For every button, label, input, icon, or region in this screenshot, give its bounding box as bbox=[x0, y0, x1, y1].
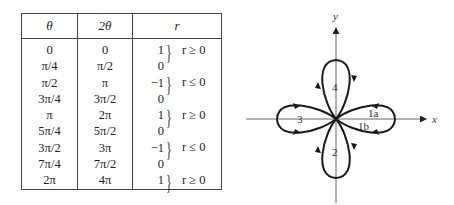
cell-two-theta: 0 bbox=[78, 42, 132, 58]
cell-r: −1 bbox=[133, 140, 164, 156]
brace: } bbox=[166, 106, 172, 128]
condition-label: r ≤ 0 bbox=[182, 75, 206, 90]
condition-label: r ≥ 0 bbox=[182, 173, 206, 188]
cell-two-theta: 2π bbox=[78, 107, 132, 123]
x-axis-label: x bbox=[431, 113, 437, 125]
rose-curve-graph: y x 1a 1b 2 3 4 bbox=[230, 0, 454, 205]
brace: } bbox=[166, 73, 172, 95]
cell-theta: π/2 bbox=[22, 75, 77, 91]
brace: } bbox=[166, 171, 172, 193]
condition-label: r ≤ 0 bbox=[182, 140, 206, 155]
cell-r: 0 bbox=[133, 58, 164, 74]
cell-two-theta: 5π/2 bbox=[78, 123, 132, 139]
condition-label: r ≥ 0 bbox=[182, 108, 206, 123]
cell-theta: π bbox=[22, 107, 77, 123]
cell-theta: 0 bbox=[22, 42, 77, 58]
petal-label-1b: 1b bbox=[358, 120, 370, 132]
cell-theta: 3π/2 bbox=[22, 140, 77, 156]
cell-r: 0 bbox=[133, 91, 164, 107]
petal-label-4: 4 bbox=[332, 81, 338, 93]
petal-label-2: 2 bbox=[332, 146, 338, 158]
two-theta-column: 0 π/2 π 3π/2 2π 5π/2 3π 7π/2 4π bbox=[78, 42, 132, 189]
condition-label: r ≥ 0 bbox=[182, 43, 206, 58]
petal-label-3: 3 bbox=[297, 113, 303, 125]
cell-theta: 2π bbox=[22, 172, 77, 188]
cell-r: −1 bbox=[133, 75, 164, 91]
cell-r: 0 bbox=[133, 123, 164, 139]
cell-r: 0 bbox=[133, 156, 164, 172]
cell-theta: π/4 bbox=[22, 58, 77, 74]
cell-two-theta: 3π/2 bbox=[78, 91, 132, 107]
header-two-theta: 2θ bbox=[78, 14, 132, 38]
cell-two-theta: 4π bbox=[78, 172, 132, 188]
header-theta: θ bbox=[22, 14, 77, 38]
cell-theta: 5π/4 bbox=[22, 123, 77, 139]
r-column: 1 0 −1 0 1 0 −1 0 1 bbox=[133, 42, 164, 189]
cell-two-theta: 7π/2 bbox=[78, 156, 132, 172]
header-r: r bbox=[133, 14, 221, 38]
cell-two-theta: π/2 bbox=[78, 58, 132, 74]
theta-column: 0 π/4 π/2 3π/4 π 5π/4 3π/2 7π/4 2π bbox=[22, 42, 77, 189]
cell-two-theta: π bbox=[78, 75, 132, 91]
cell-r: 1 bbox=[133, 42, 164, 58]
brace: } bbox=[166, 138, 172, 160]
petal-label-1a: 1a bbox=[368, 107, 379, 119]
values-table: θ 2θ r 0 π/4 π/2 3π/4 π 5π/4 3π/2 7π/4 2… bbox=[21, 13, 222, 190]
cell-theta: 7π/4 bbox=[22, 156, 77, 172]
brace: } bbox=[166, 41, 172, 63]
cell-theta: 3π/4 bbox=[22, 91, 77, 107]
cell-r: 1 bbox=[133, 107, 164, 123]
y-axis-label: y bbox=[332, 10, 338, 22]
cell-two-theta: 3π bbox=[78, 140, 132, 156]
cell-r: 1 bbox=[133, 172, 164, 188]
